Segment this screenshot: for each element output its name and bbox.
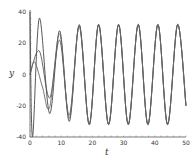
plot-area bbox=[30, 12, 186, 137]
x-tick-label: 10 bbox=[57, 139, 65, 146]
x-tick-label: 0 bbox=[28, 139, 32, 146]
x-tick-label: 20 bbox=[89, 139, 97, 146]
y-tick-label: -20 bbox=[16, 102, 26, 109]
y-tick-label: -40 bbox=[16, 133, 26, 140]
x-tick-label: 50 bbox=[182, 139, 190, 146]
x-axis-label: t bbox=[105, 147, 109, 157]
y-tick-label: 0 bbox=[22, 71, 26, 78]
y-axis-label: y bbox=[8, 68, 15, 78]
series-line-3 bbox=[30, 24, 186, 124]
axes: 01020304050-40-2002040 bbox=[16, 8, 190, 146]
y-tick-label: 40 bbox=[18, 8, 26, 15]
line-chart: 01020304050-40-2002040 t y bbox=[0, 0, 192, 161]
x-tick-label: 30 bbox=[120, 139, 128, 146]
x-tick-label: 40 bbox=[151, 139, 159, 146]
y-tick-label: 20 bbox=[18, 39, 26, 46]
